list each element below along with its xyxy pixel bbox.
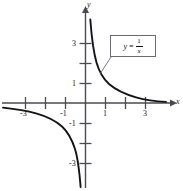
- y-tick-label-1: 1: [72, 80, 76, 88]
- plot-canvas: [0, 0, 183, 191]
- callout-leader-line: [100, 57, 111, 74]
- y-axis-label: y: [87, 1, 91, 9]
- curve-branch-positive: [90, 20, 166, 102]
- y-tick-label-neg3: -3: [69, 160, 76, 168]
- equation-numerator: 1: [136, 38, 142, 46]
- figure-hyperbola-graph: x y -3 -1 1 3 3 1 -1 -3 y = 1 x: [0, 0, 183, 191]
- y-axis: [82, 6, 89, 188]
- x-tick-label-3: 3: [143, 110, 147, 118]
- equation-fraction: 1 x: [136, 38, 143, 55]
- equation-expression: y = 1 x: [123, 38, 142, 55]
- equation-operator: =: [129, 42, 134, 51]
- y-tick-label-neg1: -1: [69, 120, 76, 128]
- x-tick-label-1: 1: [103, 110, 107, 118]
- x-tick-label-neg1: -1: [60, 110, 67, 118]
- equation-lhs: y: [123, 42, 127, 51]
- equation-denominator: x: [136, 47, 141, 55]
- x-tick-label-neg3: -3: [20, 110, 27, 118]
- y-tick-label-3: 3: [72, 40, 76, 48]
- x-axis-label: x: [176, 98, 180, 106]
- equation-callout-box: y = 1 x: [110, 35, 156, 57]
